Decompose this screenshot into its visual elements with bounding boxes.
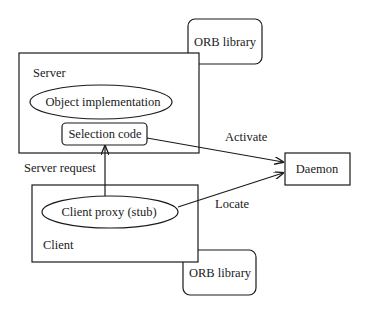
- selection-code-label: Selection code: [68, 127, 142, 141]
- client-label: Client: [43, 238, 74, 252]
- server-label: Server: [33, 66, 66, 80]
- object-implementation-ellipse: Object implementation: [30, 85, 172, 119]
- locate-label: Locate: [215, 197, 249, 211]
- server-request-label: Server request: [24, 161, 96, 175]
- orb-library-top-label: ORB library: [194, 35, 257, 49]
- orb-architecture-diagram: ORB library Server Object implementation…: [0, 0, 368, 315]
- client-proxy-ellipse: Client proxy (stub): [42, 196, 178, 228]
- client-proxy-label: Client proxy (stub): [61, 205, 156, 219]
- activate-label: Activate: [225, 130, 268, 144]
- daemon-label: Daemon: [296, 162, 339, 176]
- object-implementation-label: Object implementation: [46, 95, 162, 109]
- orb-library-bottom-label: ORB library: [189, 266, 252, 280]
- selection-code-box: Selection code: [62, 123, 147, 145]
- daemon-box: Daemon: [285, 153, 350, 185]
